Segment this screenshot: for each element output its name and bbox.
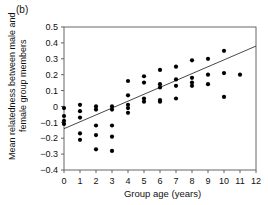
- y-axis-tick-label: 0.1: [45, 86, 58, 96]
- y-axis-tick-label: −0.4: [40, 165, 58, 175]
- data-point: [238, 73, 242, 77]
- x-axis-tick-label: 7: [173, 176, 178, 186]
- data-point: [126, 93, 130, 97]
- x-axis-tick-label: 0: [61, 176, 66, 186]
- y-axis-tick-label: −0.1: [40, 118, 58, 128]
- y-axis-tick-label: 0.3: [45, 54, 58, 64]
- data-point: [94, 133, 98, 137]
- data-point: [110, 149, 114, 153]
- data-point: [222, 95, 226, 99]
- data-point: [222, 71, 226, 75]
- data-point: [126, 79, 130, 83]
- y-axis-tick-label: 0: [53, 102, 58, 112]
- y-axis-tick-label: 0.2: [45, 70, 58, 80]
- x-axis-tick-label: 1: [77, 176, 82, 186]
- data-point: [126, 106, 130, 110]
- data-point: [78, 109, 82, 113]
- data-point: [142, 74, 146, 78]
- y-axis-tick-label: −0.2: [40, 133, 58, 143]
- data-point: [158, 85, 162, 89]
- data-point: [78, 103, 82, 107]
- data-point: [62, 106, 66, 110]
- data-point: [174, 65, 178, 69]
- data-point: [78, 131, 82, 135]
- x-axis-tick-label: 11: [235, 176, 244, 186]
- scatter-plot: 0.50.40.30.20.10−0.1−0.2−0.3−0.401234567…: [0, 0, 268, 205]
- data-point: [174, 77, 178, 81]
- x-axis-tick-label: 12: [251, 176, 261, 186]
- data-point: [190, 76, 194, 80]
- figure-panel-b: (b) Mean relatedness between male and fe…: [0, 0, 268, 205]
- data-point: [190, 58, 194, 62]
- y-axis-tick-label: 0.5: [45, 22, 58, 32]
- y-axis-tick-label: 0.4: [45, 38, 58, 48]
- data-point: [142, 100, 146, 104]
- data-point: [62, 122, 66, 126]
- x-axis-tick-label: 10: [219, 176, 229, 186]
- data-point: [126, 111, 130, 115]
- data-point: [158, 68, 162, 72]
- data-point: [158, 100, 162, 104]
- data-point: [190, 84, 194, 88]
- x-axis-tick-label: 5: [141, 176, 146, 186]
- data-point: [222, 49, 226, 53]
- data-point: [142, 81, 146, 85]
- x-axis-tick-label: 8: [189, 176, 194, 186]
- data-point: [206, 57, 210, 61]
- data-point: [94, 108, 98, 112]
- y-axis-tick-label: −0.3: [40, 149, 58, 159]
- data-point: [206, 73, 210, 77]
- x-axis-tick-label: 3: [109, 176, 114, 186]
- x-axis-tick-label: 4: [125, 176, 130, 186]
- data-point: [78, 115, 82, 119]
- data-point: [174, 96, 178, 100]
- data-point: [94, 147, 98, 151]
- data-point: [78, 138, 82, 142]
- data-point: [94, 123, 98, 127]
- data-point: [110, 108, 114, 112]
- x-axis-tick-label: 9: [205, 176, 210, 186]
- data-point: [110, 123, 114, 127]
- data-point: [174, 84, 178, 88]
- data-point: [62, 114, 66, 118]
- x-axis-tick-label: 2: [93, 176, 98, 186]
- x-axis-tick-label: 6: [157, 176, 162, 186]
- x-axis-label: Group age (years): [60, 188, 265, 199]
- data-point: [110, 135, 114, 139]
- data-point: [206, 82, 210, 86]
